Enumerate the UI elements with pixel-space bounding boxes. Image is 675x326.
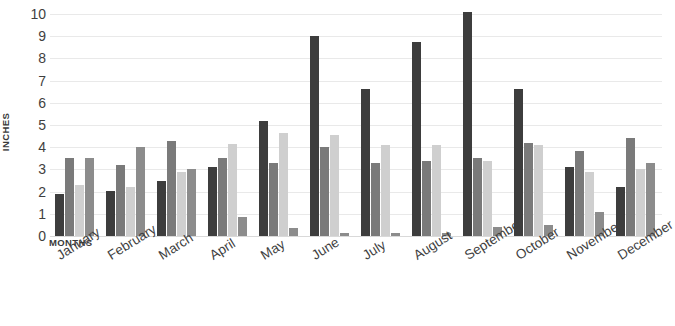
bar[interactable] — [75, 185, 84, 236]
bar[interactable] — [279, 133, 288, 236]
bar-group — [310, 14, 349, 236]
y-tick-label: 10 — [20, 7, 46, 21]
bar[interactable] — [565, 167, 574, 236]
x-axis-tick-labels: JanuaryFebruaryMarchAprilMayJuneJulyAugu… — [50, 236, 662, 326]
y-tick-label: 7 — [20, 74, 46, 88]
bar[interactable] — [483, 161, 492, 236]
x-tick-label: May — [258, 236, 288, 262]
bar[interactable] — [534, 145, 543, 236]
bar-group — [463, 14, 502, 236]
bar-group — [361, 14, 400, 236]
y-tick-label: 0 — [20, 229, 46, 243]
y-tick-label: 8 — [20, 51, 46, 65]
bar[interactable] — [167, 141, 176, 236]
bar[interactable] — [116, 165, 125, 236]
bar[interactable] — [463, 12, 472, 236]
bar[interactable] — [371, 163, 380, 236]
x-tick-label: July — [360, 237, 388, 262]
bar[interactable] — [269, 163, 278, 236]
bar[interactable] — [432, 145, 441, 236]
bar-group — [259, 14, 298, 236]
bar[interactable] — [238, 217, 247, 236]
bar-group — [208, 14, 247, 236]
bar[interactable] — [412, 42, 421, 236]
bar[interactable] — [259, 121, 268, 236]
bar[interactable] — [320, 147, 329, 236]
bar[interactable] — [218, 158, 227, 236]
y-tick-label: 5 — [20, 118, 46, 132]
bar[interactable] — [422, 161, 431, 236]
y-tick-label: 3 — [20, 162, 46, 176]
bar[interactable] — [585, 172, 594, 236]
y-tick-label: 6 — [20, 96, 46, 110]
bar[interactable] — [575, 151, 584, 236]
x-tick-label: April — [207, 236, 238, 263]
bar[interactable] — [330, 135, 339, 236]
bar[interactable] — [310, 36, 319, 236]
plot-area — [50, 14, 662, 236]
y-tick-label: 9 — [20, 29, 46, 43]
bar-group — [55, 14, 94, 236]
bar[interactable] — [55, 194, 64, 236]
bar[interactable] — [65, 158, 74, 236]
bar[interactable] — [208, 167, 217, 236]
y-tick-label: 1 — [20, 207, 46, 221]
bar[interactable] — [514, 89, 523, 236]
bar-group — [565, 14, 604, 236]
y-axis-tick-labels: 012345678910 — [20, 0, 46, 240]
bars-layer — [50, 14, 662, 236]
bar-group — [514, 14, 553, 236]
x-tick-label: June — [309, 234, 342, 262]
y-tick-label: 4 — [20, 140, 46, 154]
bar-group — [106, 14, 145, 236]
bar[interactable] — [228, 144, 237, 236]
y-axis-title: INCHES — [0, 92, 11, 172]
bar[interactable] — [177, 172, 186, 236]
bar[interactable] — [126, 187, 135, 236]
bar[interactable] — [136, 147, 145, 236]
bar[interactable] — [157, 181, 166, 237]
bar[interactable] — [636, 169, 645, 236]
y-tick-label: 2 — [20, 185, 46, 199]
bar[interactable] — [187, 169, 196, 236]
bar-group — [412, 14, 451, 236]
bar[interactable] — [361, 89, 370, 236]
bar[interactable] — [524, 143, 533, 236]
bar-group — [616, 14, 655, 236]
bar[interactable] — [626, 138, 635, 236]
bar[interactable] — [473, 158, 482, 236]
bar[interactable] — [381, 145, 390, 236]
bar-group — [157, 14, 196, 236]
bar[interactable] — [106, 191, 115, 237]
bar[interactable] — [289, 228, 298, 236]
